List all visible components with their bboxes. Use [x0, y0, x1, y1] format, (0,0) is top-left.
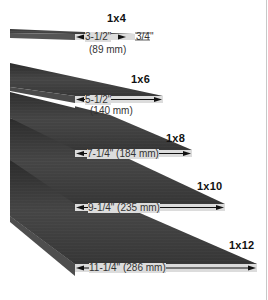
width-in-1x6: 5-1/2"	[85, 95, 111, 105]
board-1x4	[10, 29, 150, 40]
label-1x4: 1x4	[107, 12, 126, 24]
label-1x8: 1x8	[166, 132, 185, 144]
width-1x8: 7-1/4" (184 mm)	[87, 149, 159, 159]
width-1x12: 11-1/4" (286 mm)	[89, 263, 166, 273]
thickness-1x4: 3/4"	[136, 31, 153, 42]
label-1x12: 1x12	[229, 239, 254, 251]
page-edge-divider	[266, 0, 267, 300]
lumber-size-diagram: 1x4 3-1/2" 3/4" (89 mm) 1x6 5-1/2" (140 …	[0, 0, 268, 300]
width-mm-1x4: (89 mm)	[89, 44, 126, 55]
width-1x10: 9-1/4" (235 mm)	[88, 203, 160, 213]
label-1x10: 1x10	[197, 180, 222, 192]
width-in-1x4: 3-1/2"	[85, 32, 111, 42]
width-mm-1x6: (140 mm)	[90, 105, 133, 116]
label-1x6: 1x6	[131, 73, 150, 85]
